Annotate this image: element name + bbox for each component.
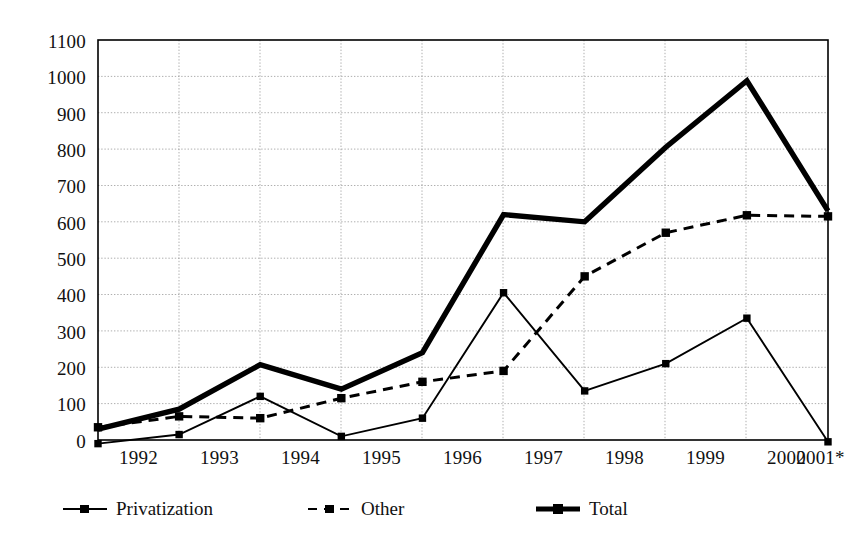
gridlines-vertical — [179, 40, 746, 440]
data-point-marker — [500, 289, 507, 296]
legend-item-privatization[interactable]: Privatization — [62, 498, 213, 520]
legend-item-other[interactable]: Other — [307, 498, 404, 520]
legend-item-total[interactable]: Total — [535, 498, 628, 520]
x-tick-label: 1995 — [341, 447, 422, 469]
series-privatization — [94, 289, 831, 447]
data-point-marker — [175, 431, 182, 438]
series-other — [94, 211, 832, 431]
legend-swatch-dashed-square-icon — [307, 502, 353, 516]
x-tick-label: 1996 — [422, 447, 503, 469]
data-point-marker — [419, 414, 426, 421]
data-point-marker — [580, 272, 588, 280]
legend-swatch-thick-solid-icon — [535, 502, 581, 516]
data-point-marker — [337, 394, 345, 402]
series-layer — [94, 81, 832, 448]
data-point-marker — [175, 412, 183, 420]
x-tick-label: 1992 — [98, 447, 179, 469]
data-point-marker — [257, 393, 264, 400]
series-total — [98, 81, 828, 429]
data-point-marker — [824, 212, 832, 220]
legend-label: Other — [361, 498, 404, 520]
x-tick-label: 1993 — [179, 447, 260, 469]
chart-legend: Privatization Other Total — [0, 492, 863, 536]
data-point-marker — [499, 367, 507, 375]
legend-swatch-solid-square-icon — [62, 502, 108, 516]
legend-label: Privatization — [116, 498, 213, 520]
x-tick-label: 1998 — [584, 447, 665, 469]
plot-frame — [98, 40, 828, 440]
data-point-marker — [338, 433, 345, 440]
x-tick-label: 1994 — [260, 447, 341, 469]
legend-label: Total — [589, 498, 628, 520]
data-point-marker — [743, 314, 750, 321]
x-tick-label: 1997 — [503, 447, 584, 469]
data-point-marker — [418, 378, 426, 386]
x-tick-label: 1999 — [665, 447, 746, 469]
x-tick-label: 2001* — [780, 447, 861, 469]
data-point-marker — [256, 414, 264, 422]
data-point-marker — [581, 387, 588, 394]
data-point-marker — [824, 438, 831, 445]
data-point-marker — [743, 211, 751, 219]
data-point-marker — [662, 229, 670, 237]
chart-figure: 1100 1000 900 800 700 600 500 400 300 20… — [0, 0, 863, 540]
data-point-marker — [662, 360, 669, 367]
